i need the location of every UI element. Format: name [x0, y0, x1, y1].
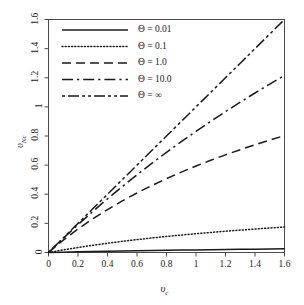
- x-tick-label: 0: [46, 260, 51, 270]
- y-tick-label: 0.4: [0, 188, 42, 198]
- y-tick-label: 0: [0, 247, 42, 257]
- legend-label-theta_inf: Θ = ∞: [138, 91, 162, 101]
- y-tick-label: 1.4: [0, 43, 42, 53]
- x-tick-label: 0.4: [102, 260, 114, 270]
- legend-label-theta_1_0: Θ = 1.0: [138, 58, 167, 68]
- y-tick-label: 1.6: [0, 14, 42, 24]
- legend-label-theta_0_1: Θ = 0.1: [138, 42, 167, 52]
- x-tick-label: 1.2: [220, 260, 232, 270]
- x-tick-label: 0.2: [72, 260, 84, 270]
- x-tick-label: 1.4: [249, 260, 261, 270]
- x-tick-label: 0.8: [161, 260, 173, 270]
- legend-label-theta_10_0: Θ = 10.0: [138, 75, 172, 85]
- x-tick-label: 1.6: [279, 260, 291, 270]
- y-tick-label: 0.2: [0, 217, 42, 227]
- x-tick-label: 0.6: [131, 260, 143, 270]
- legend-label-theta_0_01: Θ = 0.01: [138, 25, 172, 35]
- chart-figure: 00.20.40.60.811.21.41.6 00.20.40.60.811.…: [0, 0, 304, 305]
- x-axis-title: υc: [161, 283, 169, 297]
- y-axis-title: υNc: [14, 148, 27, 162]
- y-tick-label: 1: [0, 101, 42, 111]
- y-tick-label: 1.2: [0, 72, 42, 82]
- x-tick-label: 1: [194, 260, 199, 270]
